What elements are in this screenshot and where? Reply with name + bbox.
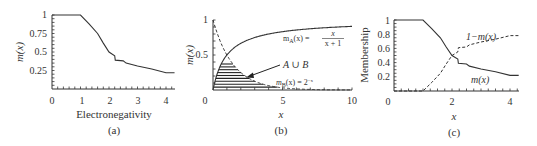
y-tick-label: 0.5 <box>35 46 48 57</box>
figure: 1 0.75 0.5 0.25 0 1 2 3 4 Electronegativ… <box>0 0 537 146</box>
x-tick-label: 3 <box>136 95 141 106</box>
x-tick-label: 0 <box>203 95 208 106</box>
annotation-m: m(x) <box>471 74 490 86</box>
annotation-one-minus-m: 1−m(x) <box>466 31 497 43</box>
x-tick-label: 4 <box>164 95 169 106</box>
arrow-line <box>250 65 280 76</box>
x-tick-label: 1 <box>80 95 85 106</box>
x-tick-label: 2 <box>108 95 113 106</box>
x-tick-label: 5 <box>281 95 286 106</box>
ann-a-den: x + 1 <box>325 39 342 48</box>
svg-text:mA(x) =: mA(x) = <box>283 34 310 44</box>
ann-a-num: x <box>330 29 335 38</box>
y-tick-label: 0.75 <box>30 28 48 39</box>
x-tick-label: 2 <box>450 96 455 107</box>
panel-b: 1 0.5 0 5 10 x m(x) (b) mA(x) = x x + 1 … <box>183 14 357 137</box>
series-m-x <box>394 20 519 75</box>
arrow-head-icon <box>246 73 254 79</box>
y-tick-label: 0.4 <box>378 57 391 68</box>
x-axis-label: x <box>278 108 284 120</box>
panel-c: 1 0.8 0.6 0.4 0.2 0 2 4 x Membership (c)… <box>358 15 519 139</box>
ann-b-rhs: (x) = 2 <box>286 78 308 87</box>
y-tick-label: 1 <box>42 9 47 20</box>
annotation-m-a: mA(x) = x x + 1 <box>283 29 344 48</box>
y-axis-label: m(x) <box>183 45 196 65</box>
x-tick-label: 4 <box>508 96 513 107</box>
x-tick-label: 0 <box>50 95 55 106</box>
y-tick-label: 0.2 <box>378 71 391 82</box>
x-minor-ticks <box>58 87 172 90</box>
y-tick-label: 0.25 <box>30 65 48 76</box>
y-tick-label: 0.5 <box>196 49 209 60</box>
y-tick-label: 0.6 <box>378 43 391 54</box>
caption-b: (b) <box>275 124 288 137</box>
y-axis-label: m(x) <box>13 42 26 62</box>
y-axis-label: Membership <box>358 27 370 83</box>
y-tick-label: 0.8 <box>378 29 391 40</box>
y-tick-label: 1 <box>203 14 208 25</box>
caption-c: (c) <box>448 126 461 139</box>
x-tick-label: 0 <box>386 96 391 107</box>
caption-a: (a) <box>108 124 121 137</box>
annotation-union: A ∪ B <box>282 59 308 70</box>
ann-a-rhs: (x) = <box>294 34 310 43</box>
panel-a: 1 0.75 0.5 0.25 0 1 2 3 4 Electronegativ… <box>13 9 175 137</box>
y-tick-label: 1 <box>385 15 390 26</box>
annotation-m-b: mB(x) = 2−x <box>276 78 313 88</box>
series-m-x <box>52 15 175 73</box>
ann-b-sup: −x <box>308 78 314 83</box>
x-tick-label: 10 <box>347 95 357 106</box>
x-axis-label: x <box>451 110 457 122</box>
series-one-minus-m-x <box>394 36 519 91</box>
x-axis-label: Electronegativity <box>76 108 152 120</box>
